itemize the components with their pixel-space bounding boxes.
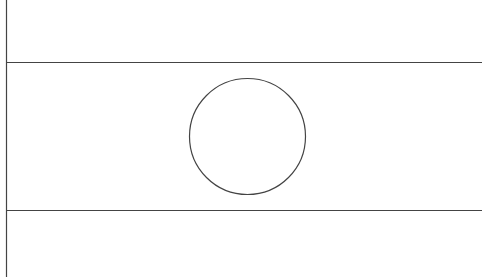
background (0, 0, 482, 277)
flag-outline-drawing (0, 0, 482, 277)
